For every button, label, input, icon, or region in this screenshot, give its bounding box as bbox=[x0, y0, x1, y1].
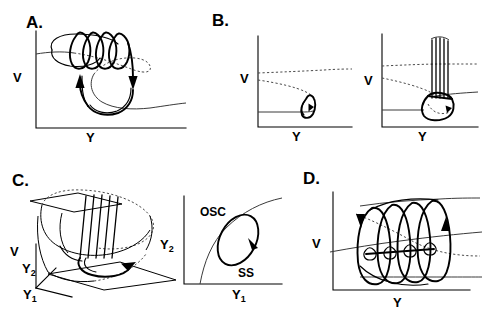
panel-d-oscillation-loops bbox=[358, 201, 451, 284]
panel-d-graphics bbox=[0, 0, 485, 321]
figure-canvas: A. V Y bbox=[0, 0, 485, 321]
